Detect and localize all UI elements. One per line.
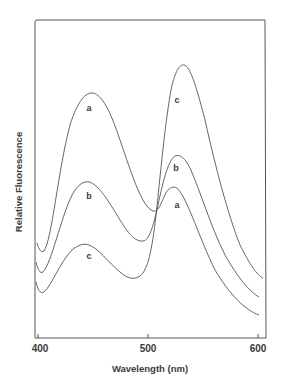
label-c-left: c — [86, 251, 91, 261]
x-axis-title: Wavelength (nm) — [112, 363, 188, 374]
fluorescence-chart: 400 500 600 Wavelength (nm) Relative Flu… — [0, 0, 281, 389]
label-a-right: a — [174, 200, 180, 210]
y-axis-title: Relative Fluorescence — [13, 132, 24, 232]
plot-frame — [35, 20, 266, 338]
x-tick-label-400: 400 — [32, 343, 49, 354]
curve-b — [36, 156, 259, 298]
label-a-left: a — [86, 103, 92, 113]
curve-c — [36, 65, 263, 293]
label-c-right: c — [174, 95, 179, 105]
x-tick-label-500: 500 — [140, 343, 157, 354]
label-b-right: b — [173, 163, 179, 173]
label-b-left: b — [86, 191, 92, 201]
x-tick-label-600: 600 — [250, 343, 267, 354]
